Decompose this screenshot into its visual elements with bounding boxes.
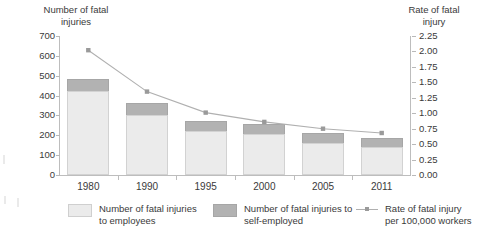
legend-label-employees: Number of fatal injuries to employees [99,203,197,227]
legend-swatch-self-employed [213,204,237,217]
legend-item-rate: Rate of fatal injury per 100,000 workers [356,203,472,227]
legend-swatch-rate-line [356,204,378,215]
legend-label-self-employed: Number of fatal injuries to self-employe… [244,203,352,227]
legend-swatch-employees [68,204,92,217]
rate-data-point-marker [145,89,149,93]
rate-data-point-marker [86,48,90,52]
rate-data-point-marker [204,110,208,114]
rate-data-point-marker [380,131,384,135]
rate-data-point-marker [262,120,266,124]
legend-item-employees: Number of fatal injuries to employees [68,203,197,227]
legend-label-rate: Rate of fatal injury per 100,000 workers [385,203,472,227]
legend-item-self-employed: Number of fatal injuries to self-employe… [213,203,352,227]
fatal-injuries-chart: Number of fatal injuries Rate of fatal i… [0,0,487,239]
rate-data-point-marker [321,127,325,131]
